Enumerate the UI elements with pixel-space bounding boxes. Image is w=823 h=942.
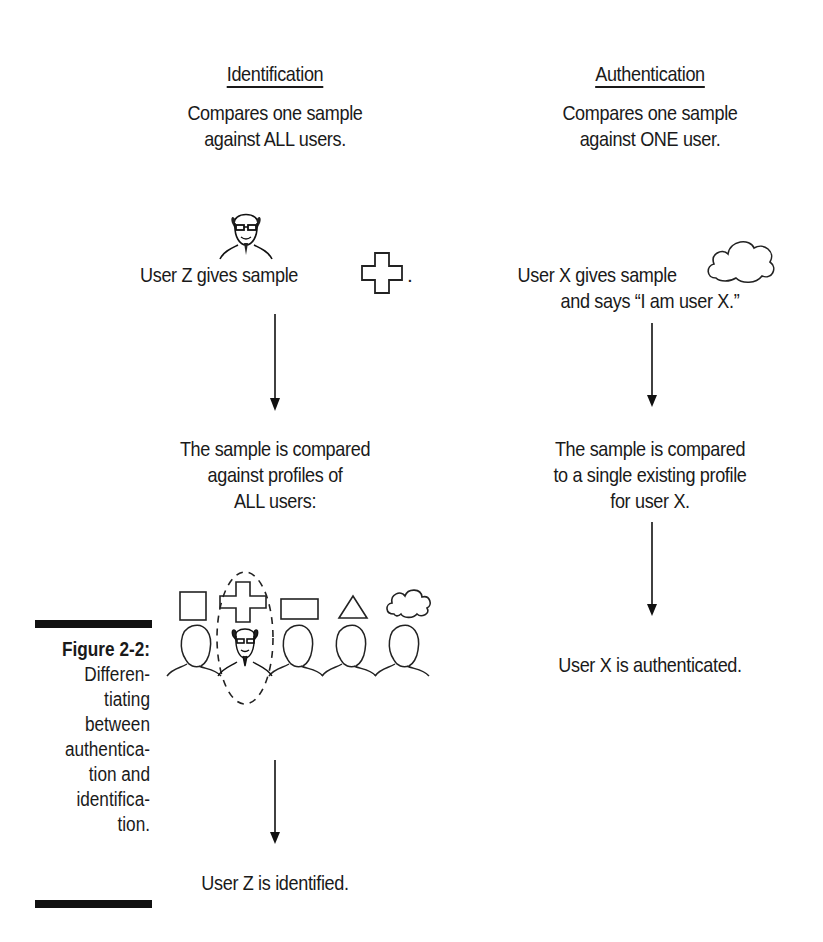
- authentication-result: User X is authenticated.: [530, 652, 771, 678]
- identification-summary: Compares one sample against ALL users.: [155, 100, 396, 152]
- identification-step2-line: against profiles of: [146, 462, 404, 488]
- authentication-step1: User X gives sample and says “I am user …: [530, 262, 771, 314]
- caption-top-rule: [35, 620, 152, 628]
- caption-line: tiating: [38, 687, 150, 712]
- caption-line: authentica-: [38, 737, 150, 762]
- blank-head-icon: [167, 625, 221, 676]
- authentication-step2: The sample is compared to a single exist…: [512, 436, 787, 514]
- authentication-summary-line: Compares one sample: [530, 100, 771, 126]
- arrow-down-icon: [645, 522, 659, 618]
- user-profiles-group: [165, 570, 445, 710]
- authentication-step2-line: for user X.: [512, 488, 787, 514]
- identification-step1-text: User Z gives sample: [140, 262, 364, 288]
- user-z-face-icon: [218, 629, 272, 676]
- highlight-ellipse: [217, 572, 273, 704]
- arrow-down-icon: [268, 314, 282, 412]
- identification-step2: The sample is compared against profiles …: [146, 436, 404, 514]
- authentication-step2-line: to a single existing profile: [512, 462, 787, 488]
- authentication-step2-line: The sample is compared: [512, 436, 787, 462]
- identification-result: User Z is identified.: [159, 870, 391, 896]
- identification-heading: Identification: [189, 62, 361, 86]
- rectangle-shape-icon: [281, 599, 318, 619]
- arrow-down-icon: [268, 760, 282, 846]
- caption-line: between: [38, 712, 150, 737]
- caption-bottom-rule: [35, 900, 152, 908]
- square-shape-icon: [180, 592, 206, 620]
- cross-shape-icon: [361, 252, 403, 294]
- user-z-face-icon: [218, 203, 274, 263]
- blank-head-icon: [322, 625, 376, 676]
- authentication-step1-line: User X gives sample: [518, 262, 771, 288]
- identification-step2-line: ALL users:: [146, 488, 404, 514]
- arrow-down-icon: [645, 323, 659, 409]
- blank-head-icon: [375, 625, 429, 676]
- authentication-heading: Authentication: [564, 62, 736, 86]
- figure-caption: Figure 2-2: Differen- tiating between au…: [38, 637, 150, 837]
- caption-line: tion and: [38, 762, 150, 787]
- caption-line: Differen-: [38, 662, 150, 687]
- caption-line: identifica-: [38, 787, 150, 812]
- cloud-shape-icon: [387, 590, 430, 617]
- caption-line: tion.: [38, 812, 150, 837]
- identification-step1-period: .: [407, 262, 413, 288]
- figure-label: Figure 2-2:: [62, 638, 150, 660]
- authentication-summary: Compares one sample against ONE user.: [530, 100, 771, 152]
- authentication-summary-line: against ONE user.: [530, 126, 771, 152]
- identification-step2-line: The sample is compared: [146, 436, 404, 462]
- authentication-step1-line: and says “I am user X.”: [530, 288, 771, 314]
- cross-shape-icon: [220, 582, 266, 622]
- identification-summary-line: Compares one sample: [155, 100, 396, 126]
- triangle-shape-icon: [339, 596, 367, 618]
- blank-head-icon: [269, 625, 323, 676]
- identification-summary-line: against ALL users.: [155, 126, 396, 152]
